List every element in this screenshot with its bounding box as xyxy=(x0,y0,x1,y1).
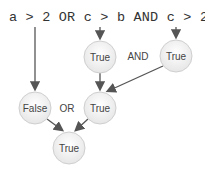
node-n4: True xyxy=(84,92,116,124)
arrow-n3-n5 xyxy=(47,119,62,130)
node-n2: True xyxy=(160,40,192,72)
node-n3: False xyxy=(19,92,51,124)
svg-text:True: True xyxy=(90,103,111,114)
node-n1: True xyxy=(84,41,116,73)
svg-text:True: True xyxy=(59,143,80,154)
svg-text:True: True xyxy=(90,52,111,63)
arrow-n4-n5 xyxy=(76,119,88,130)
evaluation-tree: True True False True True AND OR xyxy=(0,0,205,173)
arrow-n2-n4 xyxy=(108,66,163,91)
operator-and: AND xyxy=(127,51,148,62)
svg-text:True: True xyxy=(166,51,187,62)
node-n5: True xyxy=(53,132,85,164)
svg-text:False: False xyxy=(23,103,48,114)
operator-or: OR xyxy=(60,103,75,114)
